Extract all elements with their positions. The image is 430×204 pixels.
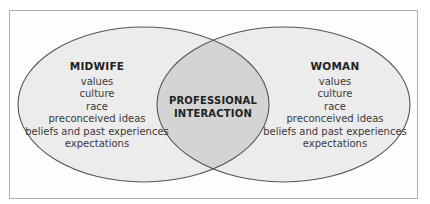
woman-title: WOMAN [255,60,415,73]
midwife-title: MIDWIFE [17,60,177,73]
woman-item: beliefs and past experiences [255,126,415,138]
woman-item: culture [255,88,415,100]
woman-item: race [255,101,415,113]
woman-block: WOMAN values culture race preconceived i… [255,60,415,150]
midwife-item: beliefs and past experiences [17,126,177,138]
woman-item: preconceived ideas [255,113,415,125]
woman-item: values [255,76,415,88]
midwife-item: values [17,76,177,88]
woman-item: expectations [255,138,415,150]
midwife-item: expectations [17,138,177,150]
